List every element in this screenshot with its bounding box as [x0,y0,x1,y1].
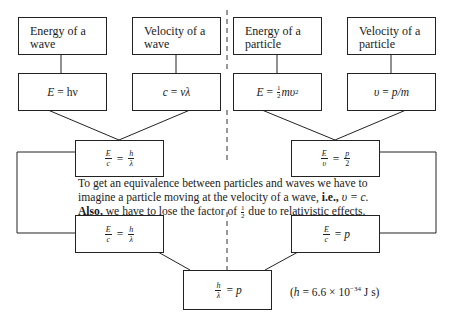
eq-lhs: c [163,86,168,98]
planck-constant-note: (h = 6.6 × 10−34 J s) [290,285,379,298]
eq-op: = [335,228,342,240]
box-wave-adjusted: Ec = hλ [75,215,164,253]
box-label: wave [30,37,55,51]
box-energy-of-wave: Energy of awave [18,17,107,55]
half-fraction: 12 [241,205,245,220]
box-velocity-of-particle: Velocity of aparticle [347,17,436,55]
eq-lhs: E [256,86,263,98]
fraction-h-over-lambda: hλ [128,149,134,168]
fraction-e-over-v: Eυ [321,149,328,168]
box-label: Velocity of a [144,24,205,38]
fraction-h-over-lambda: hλ [128,225,134,244]
eq-exponent: 2 [295,88,299,96]
box-particle-combined: Eυ = p2 [291,140,380,177]
box-formula-particle-velocity: υ = p/m [347,73,436,111]
box-formula-particle-energy: E = 12 mυ2 [233,73,322,111]
eq-rhs: p [236,284,242,296]
eq-rhs: p [344,228,350,240]
fraction-h-over-lambda: hλ [215,281,221,300]
box-label: particle [245,37,281,51]
box-energy-of-particle: Energy of aparticle [233,17,322,55]
note-line-2: imagine a particle moving at the velocit… [78,191,369,205]
box-label: Energy of a [30,24,86,38]
eq-op: = [382,86,389,98]
fraction-p-over-2: p2 [344,149,350,168]
eq-rhs: mυ [281,86,295,98]
eq-op: = [117,228,124,240]
half-fraction: 12 [277,85,281,100]
box-de-broglie-result: hλ = p [183,270,272,310]
eq-op: = [226,284,233,296]
eq-rhs: hν [67,86,78,98]
explanation-text: To get an equivalence between particles … [78,177,369,220]
fraction-e-over-c: Ec [105,149,112,168]
box-label: particle [359,37,395,51]
box-velocity-of-wave: Velocity of awave [132,17,221,55]
box-formula-wave-energy: E = hν [18,73,107,111]
note-line-1: To get an equivalence between particles … [78,177,369,191]
eq-op: = [117,153,124,165]
box-label: Velocity of a [359,24,420,38]
box-wave-combined: Ec = hλ [75,140,164,177]
box-formula-wave-velocity: c = νλ [132,73,221,111]
eq-op: = [333,153,340,165]
eq-op: = [171,86,178,98]
eq-op: = [57,86,64,98]
box-label: wave [144,37,169,51]
box-label: Energy of a [245,24,301,38]
eq-lhs: υ [374,86,379,98]
eq-rhs: νλ [180,86,190,98]
eq-op: = [266,86,273,98]
box-particle-adjusted: Ec = p [291,215,380,253]
eq-lhs: E [47,86,54,98]
fraction-e-over-c: Ec [323,225,330,244]
fraction-e-over-c: Ec [105,225,112,244]
eq-rhs: p/m [392,86,409,98]
